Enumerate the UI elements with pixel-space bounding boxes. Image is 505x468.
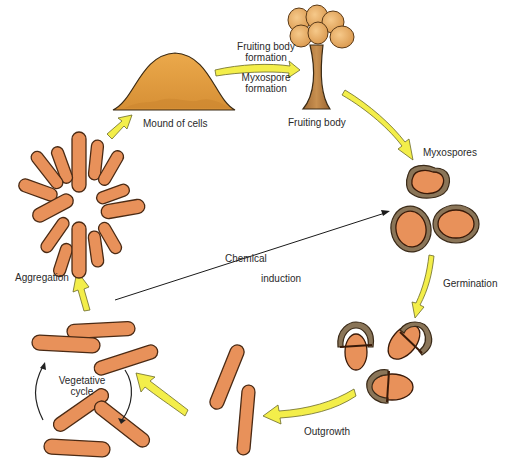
label-outgrowth: Outgrowth: [304, 426, 350, 438]
label-induction: induction: [261, 273, 301, 285]
arrow-to-vegetative: [136, 373, 188, 416]
label-fruiting-body: Fruiting body: [288, 117, 346, 129]
label-chemical: Chemical: [225, 253, 267, 265]
arrow-outgrowth: [263, 389, 356, 424]
label-germination: Germination: [443, 278, 497, 290]
label-mound-of-cells: Mound of cells: [143, 118, 207, 130]
arrow-to-mound: [107, 115, 132, 139]
cycle-arrow-right: [122, 370, 131, 420]
outgrowth-cells: [208, 343, 256, 456]
label-aggregation: Aggregation: [15, 272, 69, 284]
label-myxospores: Myxospores: [423, 147, 477, 159]
arrow-to-myxospores: [342, 90, 413, 160]
mound-of-cells: [113, 53, 235, 110]
label-fruiting-formation-2: formation: [226, 52, 306, 64]
label-vegetative-2: cycle: [52, 386, 112, 398]
myxospores: [387, 165, 479, 255]
label-myxospore-formation-2: formation: [226, 83, 306, 95]
arrow-germination: [412, 255, 434, 318]
cycle-arrow-left: [36, 366, 44, 420]
aggregation-cluster: [17, 132, 146, 278]
